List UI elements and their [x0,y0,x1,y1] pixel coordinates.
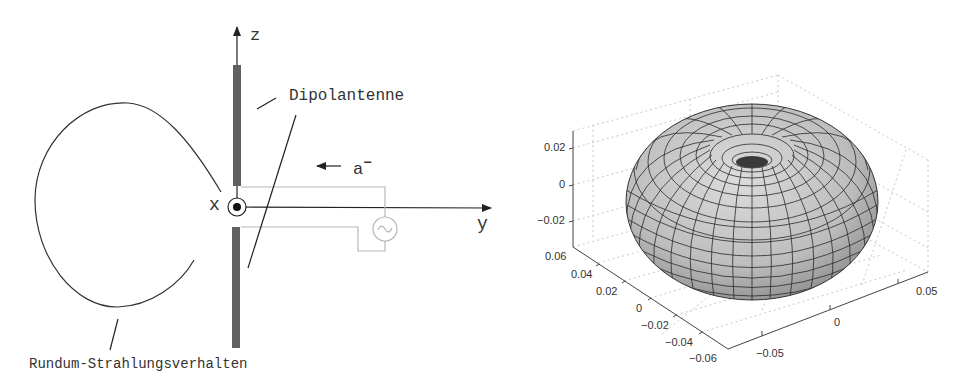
feed-line-upper [241,187,385,217]
x-axis-label: x [209,195,220,215]
antenna-upper-arm [233,65,241,186]
torus-hole [736,156,768,168]
dipole-diagram-graphic [0,0,500,392]
radiation-pattern-3d-plot: 0.02 0 −0.02 0.06 0.04 0.02 0 −0.02 −0.0… [500,0,969,392]
wave-superscript: − [363,155,371,171]
wave-symbol: a [353,160,363,179]
x-tick: −0.06 [689,352,717,364]
radiation-pattern-lobe [35,103,221,307]
antenna-leader-1 [257,98,276,109]
z-tick: 0.02 [544,141,565,153]
y-tick: −0.05 [756,347,784,359]
y-tick: 0 [834,316,840,328]
x-tick: −0.02 [641,319,669,331]
y-tick: 0.05 [916,285,937,297]
x-tick: 0.04 [571,268,592,280]
antenna-leader-2 [248,115,296,268]
x-tick: 0.06 [545,250,566,262]
x-tick: −0.04 [665,336,693,348]
dipole-diagram: z y x Dipolantenne a− Rundum-Strahlungsv… [0,0,500,392]
feed-line-lower [241,227,385,251]
antenna-label: Dipolantenne [289,87,404,105]
pattern-leader [110,319,118,350]
z-axis-label: z [250,26,260,45]
torus-surface [626,96,878,300]
antenna-lower-arm [232,227,240,348]
z-tick: −0.02 [537,214,565,226]
wave-label: a− [353,155,372,179]
x-tick: 0.02 [596,285,617,297]
plot-graphic [500,0,969,392]
y-axis [237,207,491,208]
pattern-label: Rundum-Strahlungsverhalten [29,356,247,372]
y-axis-label: y [477,214,488,234]
x-tick: 0 [636,302,642,314]
z-tick: 0 [559,178,565,190]
